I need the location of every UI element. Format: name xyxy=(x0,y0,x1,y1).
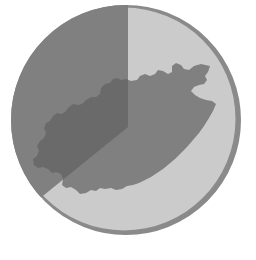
figure-root: Pie chart circle with map silhouette ove… xyxy=(0,0,256,260)
figure-canvas xyxy=(0,0,256,260)
